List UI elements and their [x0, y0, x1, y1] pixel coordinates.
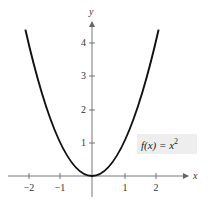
x-tick-label: 2 — [154, 182, 159, 193]
x-tick-label: −1 — [55, 182, 66, 193]
function-plot: −2 −1 1 2 1 2 3 4 x y f(x) = x2 — [0, 0, 210, 205]
y-tick-label: 3 — [81, 70, 86, 81]
y-tick-label: 2 — [81, 104, 86, 115]
x-tick-label: 1 — [123, 182, 128, 193]
x-tick-label: −2 — [24, 182, 35, 193]
y-axis-label: y — [88, 6, 94, 17]
x-axis-label: x — [192, 170, 198, 181]
y-tick-label: 4 — [81, 37, 86, 48]
y-tick-label: 1 — [81, 137, 86, 148]
function-label: f(x) = x2 — [141, 137, 178, 152]
